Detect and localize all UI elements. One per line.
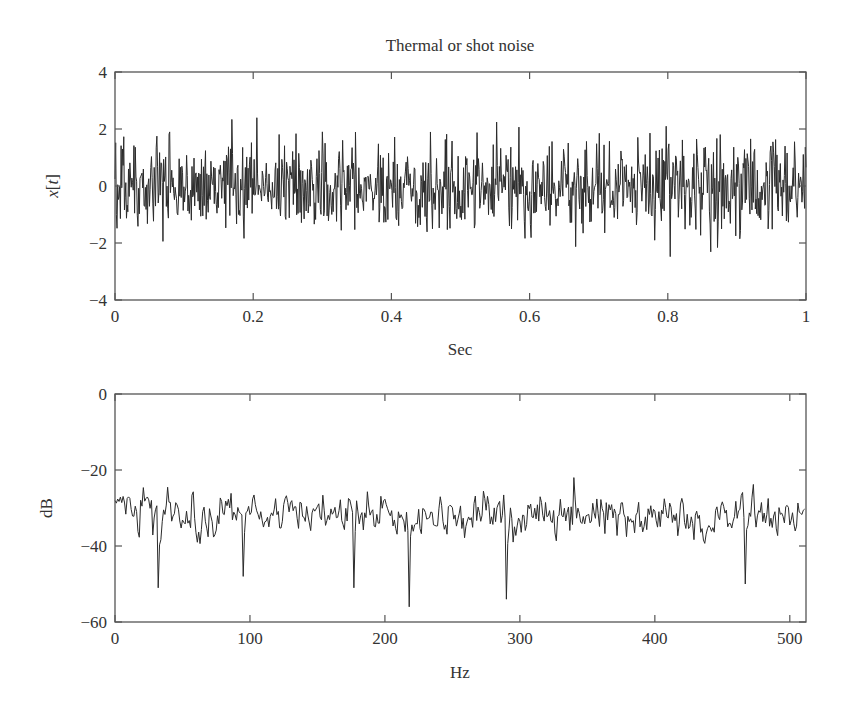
y-tick-label: −60 bbox=[80, 613, 107, 632]
noise-figure: Thermal or shot noise 00.20.40.60.81−4−2… bbox=[0, 0, 846, 714]
bottom-xlabel: Hz bbox=[450, 663, 470, 682]
x-tick-label: 0.4 bbox=[381, 307, 403, 326]
y-tick-label: 0 bbox=[99, 385, 108, 404]
x-tick-label: 400 bbox=[642, 629, 668, 648]
y-tick-label: 0 bbox=[99, 177, 108, 196]
y-tick-label: −4 bbox=[89, 291, 108, 310]
y-tick-label: −40 bbox=[80, 537, 107, 556]
chart-title: Thermal or shot noise bbox=[386, 36, 535, 55]
x-tick-label: 0 bbox=[111, 629, 120, 648]
x-tick-label: 0.8 bbox=[657, 307, 678, 326]
y-tick-label: −20 bbox=[80, 461, 107, 480]
top-ylabel: x[t] bbox=[43, 174, 62, 199]
y-tick-label: 4 bbox=[99, 63, 108, 82]
spectrum-line bbox=[115, 478, 805, 607]
spectrum-trace bbox=[115, 478, 805, 607]
frequency-domain-plot: 0100200300400500−60−40−200 Hz dB bbox=[37, 385, 806, 682]
x-tick-label: 1 bbox=[802, 307, 811, 326]
time-signal-line bbox=[115, 118, 806, 257]
x-tick-label: 0 bbox=[111, 307, 120, 326]
time-signal-trace bbox=[115, 118, 806, 257]
x-tick-label: 0.6 bbox=[519, 307, 540, 326]
x-tick-label: 0.2 bbox=[243, 307, 264, 326]
bottom-ylabel: dB bbox=[37, 498, 56, 518]
x-tick-label: 100 bbox=[237, 629, 263, 648]
x-tick-label: 200 bbox=[372, 629, 398, 648]
y-tick-label: 2 bbox=[99, 120, 108, 139]
x-tick-label: 500 bbox=[777, 629, 803, 648]
time-domain-plot: 00.20.40.60.81−4−2024 Sec x[t] bbox=[43, 63, 810, 359]
y-tick-label: −2 bbox=[89, 234, 107, 253]
x-tick-label: 300 bbox=[507, 629, 533, 648]
top-xlabel: Sec bbox=[448, 340, 473, 359]
